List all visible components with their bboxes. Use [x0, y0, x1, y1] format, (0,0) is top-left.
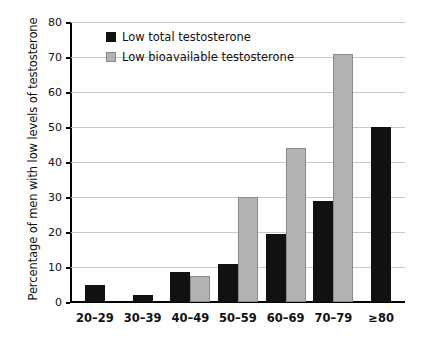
y-tick-label: 40	[38, 157, 62, 168]
y-tick-mark	[66, 22, 70, 24]
y-tick-mark	[66, 232, 70, 234]
y-tick-label: 0	[38, 297, 62, 308]
y-tick-label-wrap: 60	[34, 87, 62, 98]
y-tick-label-wrap: 40	[34, 157, 62, 168]
gridline	[71, 92, 405, 93]
y-tick-label: 20	[38, 227, 62, 238]
gray-square-icon	[106, 52, 116, 62]
y-tick-mark	[66, 57, 70, 59]
gridline	[71, 127, 405, 128]
y-tick-label: 60	[38, 87, 62, 98]
bar	[170, 272, 190, 302]
y-tick-label: 10	[38, 262, 62, 273]
y-tick-label-wrap: 20	[34, 227, 62, 238]
y-tick-mark	[66, 127, 70, 129]
y-tick-label: 30	[38, 192, 62, 203]
bar	[266, 234, 286, 302]
legend: Low total testosterone Low bioavailable …	[106, 28, 294, 68]
legend-item-total: Low total testosterone	[106, 28, 294, 45]
y-tick-mark	[66, 302, 70, 304]
y-tick-label-wrap: 70	[34, 52, 62, 63]
gridline	[71, 22, 405, 23]
y-tick-label-wrap: 10	[34, 262, 62, 273]
bar	[190, 276, 210, 302]
y-tick-label: 50	[38, 122, 62, 133]
y-tick-mark	[66, 197, 70, 199]
y-tick-label: 70	[38, 52, 62, 63]
bar	[286, 148, 306, 302]
legend-label-bioavailable: Low bioavailable testosterone	[122, 50, 294, 64]
y-tick-mark	[66, 162, 70, 164]
bar	[133, 295, 153, 302]
gridline	[71, 162, 405, 163]
legend-label-total: Low total testosterone	[122, 30, 251, 44]
y-tick-mark	[66, 267, 70, 269]
y-tick-label-wrap: 50	[34, 122, 62, 133]
bar-chart: Percentage of men with low levels of tes…	[0, 0, 423, 342]
y-tick-label-wrap: 80	[34, 17, 62, 28]
legend-item-bioavailable: Low bioavailable testosterone	[106, 48, 294, 65]
y-tick-label-wrap: 0	[34, 297, 62, 308]
y-tick-label-wrap: 30	[34, 192, 62, 203]
bar	[85, 285, 105, 303]
y-tick-label: 80	[38, 17, 62, 28]
y-tick-mark	[66, 92, 70, 94]
bar	[333, 54, 353, 303]
bar	[238, 197, 258, 302]
x-tick-label: ≥80	[351, 312, 411, 325]
bar	[371, 127, 391, 302]
bar	[218, 264, 238, 303]
bar	[313, 201, 333, 303]
black-square-icon	[106, 32, 116, 42]
